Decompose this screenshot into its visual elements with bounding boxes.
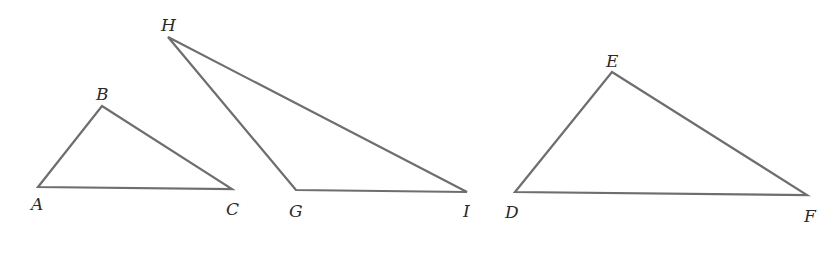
triangle-abc: A B C <box>29 84 239 219</box>
triangle-ghi: G H I <box>160 15 470 221</box>
vertex-label-c: C <box>226 199 239 219</box>
triangle-def: D E F <box>504 51 817 226</box>
diagram-canvas: A B C G H I D E F <box>0 0 838 263</box>
vertex-label-a: A <box>29 194 43 214</box>
triangle-abc-outline <box>38 106 232 189</box>
vertex-label-d: D <box>504 202 519 222</box>
triangles-figure: A B C G H I D E F <box>0 0 838 263</box>
vertex-label-g: G <box>289 201 303 221</box>
triangle-def-outline <box>515 72 807 195</box>
vertex-label-h: H <box>160 15 177 35</box>
vertex-label-f: F <box>803 206 817 226</box>
triangle-ghi-outline <box>168 37 467 192</box>
vertex-label-b: B <box>95 84 109 104</box>
vertex-label-e: E <box>605 51 619 71</box>
vertex-label-i: I <box>462 201 470 221</box>
